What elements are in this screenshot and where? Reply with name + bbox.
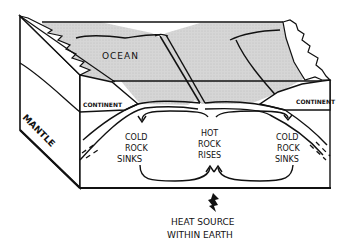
heat-source-line-2: WITHIN EARTH [167, 230, 233, 240]
heat-source-line-1: HEAT SOURCE [171, 217, 235, 227]
ridge-crest [155, 35, 168, 37]
cold-right-line-2: ROCK [277, 144, 300, 153]
plate-tectonics-diagram: OCEAN CONTINENT CONTINENT MANTLE COLD RO… [0, 0, 364, 250]
cold-left-line-3: SINKS [117, 154, 142, 164]
continent-left-label: CONTINENT [83, 101, 123, 108]
cold-right-line-1: COLD [276, 133, 299, 142]
cold-right-line-3: SINKS [275, 155, 299, 164]
hot-center-line-3: RISES [198, 151, 221, 160]
heat-source-arrow-icon [208, 193, 219, 212]
hot-center-line-2: ROCK [198, 140, 221, 149]
cold-left-line-1: COLD [125, 133, 148, 142]
continent-right-label: CONTINENT [296, 98, 336, 105]
cold-left-line-2: ROCK [125, 144, 148, 153]
hot-center-line-1: HOT [201, 129, 218, 138]
ocean-label: OCEAN [102, 51, 139, 61]
